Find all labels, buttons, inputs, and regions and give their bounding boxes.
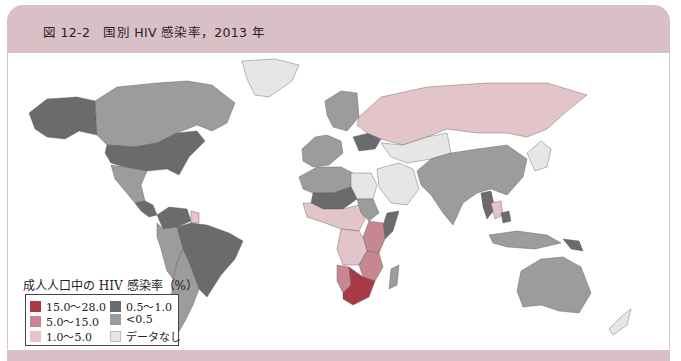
legend-item-no-data: データなし xyxy=(110,328,181,344)
figure-title: 図 12-2 国別 HIV 感染率，2013 年 xyxy=(43,22,265,41)
figure-frame: 図 12-2 国別 HIV 感染率，2013 年 成人人口中の HIV 感染率（… xyxy=(7,5,670,361)
legend-label: 0.5～1.0 xyxy=(126,298,172,314)
legend-swatch xyxy=(30,316,41,327)
legend-item-1-5: 1.0～5.0 xyxy=(30,328,92,344)
legend-label: データなし xyxy=(126,328,181,344)
legend-item-under-0.5: <0.5 xyxy=(110,313,153,326)
region-middle-east xyxy=(377,163,419,205)
legend-item-5-15: 5.0～15.0 xyxy=(30,313,99,329)
region-somalia xyxy=(383,211,399,239)
legend-label: 15.0～28.0 xyxy=(46,298,106,314)
region-guyana xyxy=(191,211,199,223)
region-mexico xyxy=(111,165,147,203)
region-madagascar xyxy=(389,265,399,289)
region-canada xyxy=(95,81,235,147)
legend-swatch xyxy=(30,331,41,342)
legend-label: 5.0～15.0 xyxy=(46,313,99,329)
region-alaska-usa xyxy=(29,97,97,139)
region-new-zealand xyxy=(609,309,631,335)
legend-item-15-28: 15.0～28.0 xyxy=(30,298,106,314)
legend-swatch xyxy=(30,301,41,312)
region-scandinavia xyxy=(325,91,359,131)
legend-label: <0.5 xyxy=(126,313,153,326)
region-japan-korea xyxy=(527,141,551,171)
region-western-europe xyxy=(302,135,343,167)
region-indonesia xyxy=(489,231,561,249)
figure-header: 図 12-2 国別 HIV 感染率，2013 年 xyxy=(7,5,670,53)
region-cambodia xyxy=(501,211,511,223)
legend-box: 15.0～28.0 5.0～15.0 1.0～5.0 0.5～1.0 <0.5 … xyxy=(25,294,179,346)
region-russia xyxy=(357,83,587,145)
figure-footer-band xyxy=(7,350,670,361)
region-australia xyxy=(517,257,591,313)
region-greenland xyxy=(242,59,299,97)
legend-swatch xyxy=(110,314,121,325)
legend-swatch xyxy=(110,331,121,342)
region-central-america xyxy=(135,201,157,217)
legend-swatch xyxy=(110,301,121,312)
legend-item-0.5-1: 0.5～1.0 xyxy=(110,298,172,314)
region-papua-new-guinea xyxy=(563,239,583,251)
region-thailand xyxy=(491,201,503,219)
legend-label: 1.0～5.0 xyxy=(46,328,92,344)
legend-title: 成人人口中の HIV 感染率（%） xyxy=(23,276,198,293)
